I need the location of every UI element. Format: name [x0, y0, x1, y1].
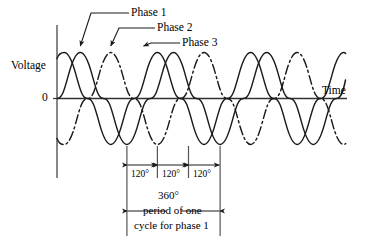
phase2-leader-line [111, 28, 155, 46]
phase3-leader-line [144, 43, 181, 46]
phase1-leader-line [80, 13, 129, 46]
three-phase-waveform-figure: Phase 1 Phase 2 Phase 3 Voltage 0 Time 1… [0, 0, 367, 243]
phase1-label: Phase 1 [131, 7, 166, 19]
voltage-axis-label: Voltage [11, 60, 46, 72]
period-caption-line2: cycle for phase 1 [134, 220, 209, 231]
period-caption-line1: period of one [143, 205, 202, 216]
period-degree-label: 360° [158, 190, 179, 201]
time-axis-label: Time [322, 85, 346, 97]
segment1-degree-label: 120° [131, 170, 149, 180]
segment3-degree-label: 120° [193, 170, 211, 180]
phase2-label: Phase 2 [157, 22, 192, 34]
zero-label: 0 [42, 92, 48, 104]
phase3-label: Phase 3 [182, 37, 217, 49]
segment2-degree-label: 120° [162, 170, 180, 180]
